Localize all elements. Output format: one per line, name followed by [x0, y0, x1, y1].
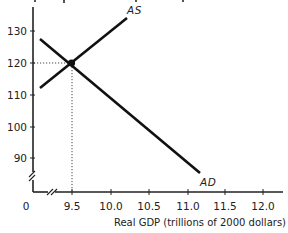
y-tick-110: 110 — [7, 89, 27, 101]
x-axis-title: Real GDP (trillions of 2000 dollars) — [114, 217, 286, 228]
y-tick-90: 90 — [14, 152, 27, 164]
x-tick-9-5: 9.5 — [64, 200, 81, 212]
y-tick-100: 100 — [7, 121, 27, 133]
as-label: AS — [126, 4, 142, 16]
cropped-axis-title-fragment — [34, 0, 184, 3]
as-curve — [40, 18, 127, 88]
x-tick-12-0: 12.0 — [251, 200, 274, 212]
x-axis — [33, 189, 283, 195]
equilibrium-point — [68, 59, 75, 66]
equilibrium-guides — [34, 63, 72, 191]
origin-label: 0 — [23, 200, 30, 212]
x-tick-10-0: 10.0 — [99, 200, 122, 212]
ad-as-chart: 130 120 110 100 90 0 9.5 10.0 10.5 11.0 … — [0, 0, 288, 233]
y-axis — [29, 7, 35, 192]
x-tick-11-0: 11.0 — [176, 200, 199, 212]
ad-label: AD — [199, 176, 216, 188]
y-tick-130: 130 — [7, 25, 27, 37]
x-tick-11-5: 11.5 — [213, 200, 236, 212]
ad-curve — [40, 39, 200, 173]
x-tick-10-5: 10.5 — [137, 200, 160, 212]
y-tick-120: 120 — [7, 57, 27, 69]
